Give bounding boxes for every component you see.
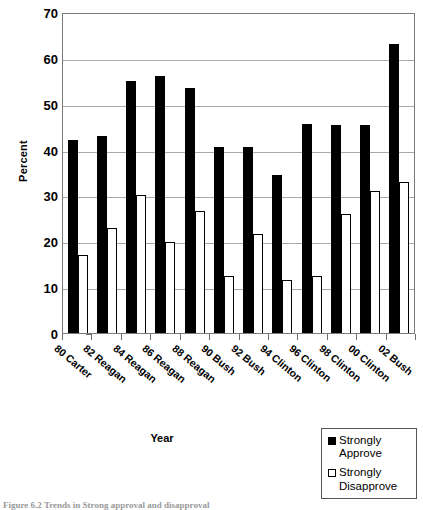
y-tick-label-60: 60 [32,53,58,66]
y-tick-label-50: 50 [32,99,58,112]
x-tick-mark [415,334,416,340]
bar-chart-figure: Percent 706050403020100 80 Carter82 Reag… [0,0,423,510]
y-tick-label-70: 70 [32,7,58,20]
y-axis-tick-labels: 706050403020100 [28,0,58,510]
bar-group [297,14,326,333]
bar-disapprove [136,195,146,333]
bar-group [92,14,121,333]
bar-disapprove [253,234,263,333]
bar-disapprove [341,214,351,333]
legend-label-line1: Strongly [339,434,381,446]
chart-legend: Strongly Approve Strongly Disapprove [321,428,417,499]
y-tick-label-30: 30 [32,190,58,203]
legend-entry-strongly-disapprove: Strongly Disapprove [328,466,412,492]
bars-layer [63,14,414,333]
bar-approve [302,124,312,333]
y-tick-label-0: 0 [32,328,58,341]
bar-approve [126,81,136,333]
bar-disapprove [370,191,380,333]
legend-label-line1: Strongly [339,466,381,478]
bar-approve [389,44,399,333]
plot-area [62,13,415,334]
bar-approve [68,140,78,333]
bar-disapprove [399,182,409,333]
bar-approve [97,136,107,333]
legend-label-strongly-disapprove: Strongly Disapprove [339,466,397,492]
legend-label-line2: Approve [339,447,382,459]
bar-approve [214,147,224,333]
bar-group [239,14,268,333]
bar-disapprove [165,242,175,333]
bar-group [180,14,209,333]
y-tick-label-40: 40 [32,145,58,158]
bar-disapprove [282,280,292,333]
filled-square-icon [328,437,336,445]
bar-disapprove [195,211,205,333]
bar-approve [360,125,370,333]
bar-group [356,14,385,333]
bar-disapprove [107,228,117,333]
bar-approve [155,76,165,333]
bar-disapprove [78,255,88,333]
bar-group [122,14,151,333]
bar-group [209,14,238,333]
bar-approve [331,125,341,333]
bar-approve [185,88,195,333]
legend-entry-strongly-approve: Strongly Approve [328,434,412,460]
legend-label-line2: Disapprove [339,480,397,492]
bar-group [63,14,92,333]
bar-approve [272,175,282,333]
bar-disapprove [312,276,322,333]
x-axis-category-labels: 80 Carter82 Reagan84 Reagan86 Reagan88 R… [62,340,415,420]
bar-group [268,14,297,333]
bar-group [151,14,180,333]
bar-approve [243,147,253,333]
x-axis-title: Year [62,432,262,444]
outlined-square-icon [328,469,336,477]
bar-group [385,14,414,333]
figure-caption: Figure 6.2 Trends in Strong approval and… [3,500,421,510]
bar-disapprove [224,276,234,333]
bar-group [326,14,355,333]
y-tick-label-10: 10 [32,282,58,295]
legend-label-strongly-approve: Strongly Approve [339,434,382,460]
y-tick-label-20: 20 [32,236,58,249]
